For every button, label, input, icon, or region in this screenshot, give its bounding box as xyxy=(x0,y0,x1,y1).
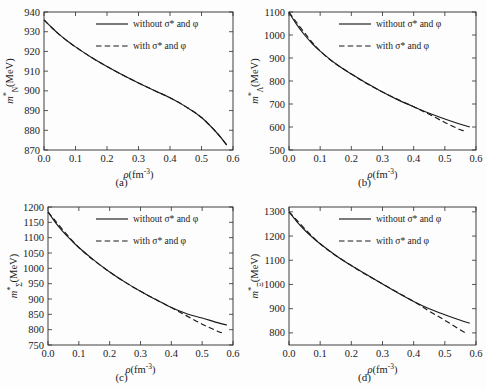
y-tick-label: 930 xyxy=(24,26,40,37)
x-tick-label: 0.3 xyxy=(376,153,389,164)
panel-d-caption: (d) xyxy=(243,371,486,383)
x-tick-label: 0.6 xyxy=(469,153,482,164)
y-axis-title: m*Λ(MeV) xyxy=(247,58,265,104)
x-tick-label: 0.4 xyxy=(407,348,421,359)
y-tick-label: 950 xyxy=(28,278,44,289)
y-tick-label: 900 xyxy=(269,303,285,314)
legend-solid-label: without σ* and φ xyxy=(376,214,442,224)
legend-solid-label: without σ* and φ xyxy=(133,19,199,29)
x-tick-label: 0.1 xyxy=(72,348,85,359)
x-tick-label: 0.1 xyxy=(69,153,82,164)
x-tick-label: 0.6 xyxy=(226,348,239,359)
plot-frame xyxy=(44,12,233,150)
plot-frame xyxy=(289,12,476,150)
y-tick-label: 900 xyxy=(24,85,40,96)
x-tick-label: 0.0 xyxy=(282,348,295,359)
y-tick-label: 880 xyxy=(24,125,40,136)
y-tick-label: 870 xyxy=(24,145,40,156)
panel-c: 0.00.10.20.30.40.50.67508008509009501000… xyxy=(0,195,243,389)
y-tick-label: 800 xyxy=(269,76,285,87)
y-tick-label: 1000 xyxy=(264,279,285,290)
y-tick-label: 1300 xyxy=(264,206,285,217)
y-tick-label: 1150 xyxy=(23,217,44,228)
figure-root: 0.00.10.20.30.40.50.68708808909009109209… xyxy=(0,0,486,389)
panel-b-plot: 0.00.10.20.30.40.50.65006007008009001000… xyxy=(243,0,486,194)
y-tick-label: 890 xyxy=(24,105,40,116)
y-tick-label: 900 xyxy=(269,53,285,64)
y-tick-label: 910 xyxy=(24,66,40,77)
y-tick-label: 1100 xyxy=(23,232,44,243)
x-tick-label: 0.4 xyxy=(407,153,421,164)
x-tick-label: 0.5 xyxy=(196,348,209,359)
y-tick-label: 500 xyxy=(269,145,285,156)
y-tick-label: 1200 xyxy=(264,231,285,242)
y-tick-label: 920 xyxy=(24,46,40,57)
legend-dashed-label: with σ* and φ xyxy=(376,236,430,246)
x-tick-label: 0.3 xyxy=(134,348,147,359)
curve-without-sigma-phi xyxy=(44,20,227,145)
y-tick-label: 1000 xyxy=(264,30,285,41)
x-tick-label: 0.4 xyxy=(165,348,179,359)
panel-b: 0.00.10.20.30.40.50.65006007008009001000… xyxy=(243,0,486,194)
y-tick-label: 750 xyxy=(28,340,44,351)
legend-dashed-label: with σ* and φ xyxy=(133,236,187,246)
panel-b-caption: (b) xyxy=(243,176,486,188)
y-axis-title: m*Ξ(MeV) xyxy=(247,253,265,298)
y-tick-label: 800 xyxy=(269,327,285,338)
x-tick-label: 0.2 xyxy=(345,153,358,164)
panel-a-plot: 0.00.10.20.30.40.50.68708808909009109209… xyxy=(0,0,243,194)
panel-a-caption: (a) xyxy=(0,176,243,188)
y-tick-label: 1050 xyxy=(23,248,44,259)
plot-frame xyxy=(289,207,476,345)
y-tick-label: 850 xyxy=(28,309,44,320)
legend-solid-label: without σ* and φ xyxy=(133,214,199,224)
curve-with-sigma-phi xyxy=(289,212,467,334)
x-tick-label: 0.5 xyxy=(195,153,208,164)
y-tick-label: 1200 xyxy=(23,202,44,213)
x-tick-label: 0.1 xyxy=(314,153,327,164)
y-axis-title: m*Σ(MeV) xyxy=(6,253,24,298)
y-tick-label: 1100 xyxy=(264,7,285,18)
legend-dashed-label: with σ* and φ xyxy=(133,41,187,51)
y-tick-label: 600 xyxy=(269,122,285,133)
curve-without-sigma-phi xyxy=(48,212,227,325)
y-tick-label: 800 xyxy=(28,324,44,335)
y-tick-label: 940 xyxy=(24,7,40,18)
curve-with-sigma-phi xyxy=(48,212,224,333)
panel-c-caption: (c) xyxy=(0,371,243,383)
panel-c-plot: 0.00.10.20.30.40.50.67508008509009501000… xyxy=(0,195,243,389)
x-tick-label: 0.4 xyxy=(163,153,177,164)
curve-without-sigma-phi xyxy=(289,12,470,127)
x-tick-label: 0.2 xyxy=(103,348,116,359)
x-tick-label: 0.3 xyxy=(132,153,145,164)
curve-without-sigma-phi xyxy=(289,212,470,323)
y-tick-label: 900 xyxy=(28,294,44,305)
x-tick-label: 0.6 xyxy=(226,153,239,164)
curve-with-sigma-phi xyxy=(289,12,467,131)
legend-dashed-label: with σ* and φ xyxy=(376,41,430,51)
panel-a: 0.00.10.20.30.40.50.68708808909009109209… xyxy=(0,0,243,194)
y-tick-label: 1100 xyxy=(264,255,285,266)
y-tick-label: 700 xyxy=(269,99,285,110)
y-tick-label: 1000 xyxy=(23,263,44,274)
panel-d: 0.00.10.20.30.40.50.68009001000110012001… xyxy=(243,195,486,389)
x-tick-label: 0.3 xyxy=(376,348,389,359)
x-tick-label: 0.5 xyxy=(438,153,451,164)
x-tick-label: 0.1 xyxy=(314,348,327,359)
plot-frame xyxy=(48,207,233,345)
curve-with-sigma-phi xyxy=(44,20,227,145)
panel-d-plot: 0.00.10.20.30.40.50.68009001000110012001… xyxy=(243,195,486,389)
x-tick-label: 0.2 xyxy=(345,348,358,359)
legend-solid-label: without σ* and φ xyxy=(376,19,442,29)
x-tick-label: 0.2 xyxy=(100,153,113,164)
x-tick-label: 0.6 xyxy=(469,348,482,359)
x-tick-label: 0.5 xyxy=(438,348,451,359)
y-axis-title: m*N(MeV) xyxy=(2,58,20,104)
